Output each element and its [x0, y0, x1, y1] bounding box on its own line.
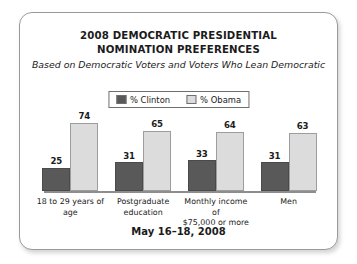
bar-wrap-obama-3: 63 [289, 133, 317, 191]
legend-entry-obama: % Obama [186, 95, 241, 105]
x-axis-label-1-line-0: Postgraduate [108, 197, 179, 208]
bar-obama-0 [70, 123, 98, 191]
bar-group-1: 31 65 [107, 117, 180, 191]
bar-group-2: 33 64 [180, 117, 253, 191]
bar-groups: 25 74 31 65 33 [34, 117, 325, 191]
chart-footer-date: May 16–18, 2008 [20, 226, 337, 237]
legend-label-obama: % Obama [200, 95, 241, 105]
bar-wrap-obama-1: 65 [143, 131, 171, 191]
chart-title-block: 2008 DEMOCRATIC PRESIDENTIAL NOMINATION … [20, 29, 337, 72]
bar-group-0: 25 74 [34, 117, 107, 191]
x-axis-label-2-line-0: Monthly income of [181, 197, 252, 218]
bar-value-clinton-1: 31 [115, 151, 143, 161]
bar-wrap-clinton-2: 33 [188, 160, 216, 190]
chart-subtitle: Based on Democratic Voters and Voters Wh… [20, 57, 337, 72]
bar-clinton-0 [42, 168, 70, 191]
legend-swatch-obama [186, 95, 196, 104]
x-axis-label-0: 18 to 29 years of age [34, 197, 107, 229]
x-axis-label-3: Men [252, 197, 325, 229]
chart-x-axis-labels: 18 to 29 years of age Postgraduate educa… [34, 197, 325, 229]
chart-title-line-2: NOMINATION PREFERENCES [20, 43, 337, 57]
bar-clinton-3 [261, 162, 289, 190]
chart-title-line-1: 2008 DEMOCRATIC PRESIDENTIAL [20, 29, 337, 43]
legend-entry-clinton: % Clinton [116, 95, 170, 105]
bar-wrap-clinton-1: 31 [115, 162, 143, 190]
bar-value-obama-3: 63 [289, 121, 317, 131]
x-axis-label-1: Postgraduate education [107, 197, 180, 229]
legend-label-clinton: % Clinton [130, 95, 170, 105]
bar-value-clinton-0: 25 [42, 156, 70, 166]
bar-obama-2 [216, 132, 244, 191]
bar-value-obama-0: 74 [70, 111, 98, 121]
chart-legend: % Clinton % Obama [108, 91, 249, 108]
legend-swatch-clinton [116, 95, 126, 104]
x-axis-label-3-line-0: Men [253, 197, 324, 208]
x-axis-label-1-line-1: education [108, 208, 179, 219]
chart-figure: 2008 DEMOCRATIC PRESIDENTIAL NOMINATION … [19, 12, 338, 250]
bar-value-obama-1: 65 [143, 119, 171, 129]
x-axis-label-2: Monthly income of $75,000 or more [180, 197, 253, 229]
bar-clinton-1 [115, 162, 143, 190]
bar-value-obama-2: 64 [216, 120, 244, 130]
bar-wrap-clinton-0: 25 [42, 168, 70, 191]
bar-wrap-obama-2: 64 [216, 132, 244, 191]
bar-wrap-obama-0: 74 [70, 123, 98, 191]
x-axis-label-0-line-0: 18 to 29 years of age [35, 197, 106, 218]
bar-wrap-clinton-3: 31 [261, 162, 289, 190]
bar-value-clinton-2: 33 [188, 149, 216, 159]
bar-obama-1 [143, 131, 171, 191]
bar-value-clinton-3: 31 [261, 151, 289, 161]
bar-obama-3 [289, 133, 317, 191]
chart-baseline [44, 191, 316, 194]
bar-clinton-2 [188, 160, 216, 190]
chart-plot-area: 25 74 31 65 33 [34, 117, 325, 193]
bar-group-3: 31 63 [252, 117, 325, 191]
